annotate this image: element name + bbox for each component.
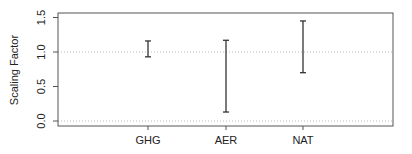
x-tick-label: AER: [215, 134, 238, 146]
x-tick-label: NAT: [292, 134, 313, 146]
y-axis-label: Scaling Factor: [8, 35, 20, 106]
chart: 0.00.51.01.5 GHGAERNAT Scaling Factor: [0, 0, 412, 154]
y-tick-label: 0.5: [35, 79, 47, 94]
error-bar-ghg: [145, 41, 151, 57]
y-tick-label: 1.0: [35, 44, 47, 59]
y-tick-label: 0.0: [35, 113, 47, 128]
y-axis: 0.00.51.01.5: [35, 10, 58, 129]
x-axis: GHGAERNAT: [135, 126, 313, 146]
y-tick-label: 1.5: [35, 10, 47, 25]
error-bar-aer: [223, 40, 229, 112]
error-bars: [145, 21, 306, 112]
x-tick-label: GHG: [135, 134, 160, 146]
error-bar-nat: [300, 21, 306, 73]
